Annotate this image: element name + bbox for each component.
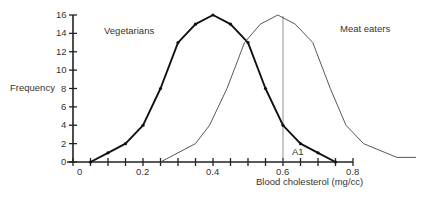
series-label-vegetarians: Vegetarians [104, 25, 154, 36]
data-point [264, 87, 267, 90]
x-tick-label: 0 [77, 166, 82, 177]
series-line-meat-eaters [161, 15, 417, 162]
data-point [124, 142, 127, 145]
y-tick-label: 2 [61, 138, 66, 149]
y-axis-title: Frequency [10, 82, 55, 93]
data-point [194, 23, 197, 26]
series-label-meat-eaters: Meat eaters [340, 23, 390, 34]
data-point [246, 41, 249, 44]
data-point [89, 160, 92, 163]
y-tick-label: 10 [56, 64, 67, 75]
y-tick-label: 14 [56, 27, 67, 38]
annotation-a1: A1 [292, 146, 304, 157]
y-tick-label: 8 [61, 83, 66, 94]
data-point [106, 151, 109, 154]
y-tick-label: 4 [61, 119, 66, 130]
data-point [316, 151, 319, 154]
y-tick-label: 0 [61, 156, 66, 167]
data-point [141, 124, 144, 127]
data-point [299, 142, 302, 145]
x-tick-label: 0.4 [206, 166, 219, 177]
x-tick-label: 0.2 [136, 166, 149, 177]
data-point [176, 41, 179, 44]
y-tick-label: 12 [56, 46, 67, 57]
data-point [281, 124, 284, 127]
y-tick-label: 16 [56, 9, 67, 20]
data-point [229, 23, 232, 26]
data-point [334, 160, 337, 163]
series-line-vegetarians [91, 15, 336, 162]
y-tick-label: 6 [61, 101, 66, 112]
data-point [159, 87, 162, 90]
data-point [211, 13, 214, 16]
axes [67, 15, 353, 166]
x-axis-title: Blood cholesterol (mg/cc) [256, 176, 363, 187]
